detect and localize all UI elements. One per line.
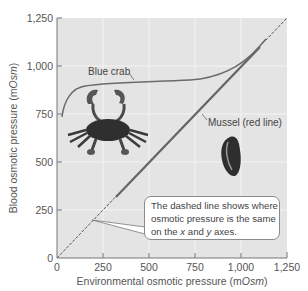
y-tick-1000: 1,000: [27, 60, 53, 72]
osmotic-pressure-chart: 0 250 500 750 1,000 1,250 0 250 500 750 …: [0, 0, 308, 291]
x-tick-labels: 0 250 500 750 1,000 1,250: [54, 261, 300, 273]
equality-callout: The dashed line shows where osmotic pres…: [144, 196, 280, 240]
mussel-label: Mussel (red line): [208, 117, 282, 128]
x-tick-1000: 1,000: [228, 261, 254, 273]
y-tick-750: 750: [35, 108, 53, 120]
callout-line-1: The dashed line shows where: [151, 199, 275, 212]
blue-crab-label: Blue crab: [88, 66, 131, 77]
y-tick-labels: 0 250 500 750 1,000 1,250: [27, 12, 53, 264]
x-tick-750: 750: [186, 261, 204, 273]
y-axis-title: Blood osmotic pressure (mOsm): [7, 63, 19, 214]
x-tick-500: 500: [140, 261, 158, 273]
y-tick-0: 0: [47, 252, 53, 264]
x-axis-title: Environmental osmotic pressure (mOsm): [77, 275, 268, 287]
y-tick-1250: 1,250: [27, 12, 53, 24]
y-tick-250: 250: [35, 204, 53, 216]
callout-line-2: osmotic pressure is the same: [151, 212, 275, 225]
y-tick-500: 500: [35, 156, 53, 168]
callout-line-3: on the x and y axes.: [151, 225, 275, 238]
x-tick-250: 250: [94, 261, 112, 273]
x-tick-0: 0: [54, 261, 60, 273]
x-tick-1250: 1,250: [274, 261, 300, 273]
